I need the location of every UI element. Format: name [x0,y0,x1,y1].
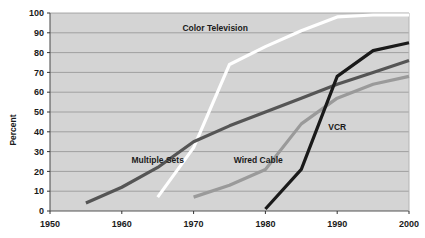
series-label-multiple-sets: Multiple Sets [131,155,184,165]
y-tick-label: 40 [34,127,44,137]
x-tick-label: 1980 [255,219,275,229]
y-tick-label: 10 [34,186,44,196]
x-tick-labels-group: 195019601970198019902000 [40,219,419,229]
x-tick-label: 1950 [40,219,60,229]
y-tick-label: 0 [39,206,44,216]
y-tick-label: 60 [34,87,44,97]
y-axis-title-group: Percent [8,114,18,145]
line-chart: 0102030405060708090100 19501960197019801… [0,0,425,238]
y-tick-label: 100 [29,8,44,18]
series-label-vcr: VCR [328,122,346,132]
y-tick-label: 70 [34,68,44,78]
chart-container: 0102030405060708090100 19501960197019801… [0,0,425,238]
y-tick-label: 80 [34,48,44,58]
y-tick-label: 90 [34,28,44,38]
series-label-color-television: Color Television [182,23,248,33]
series-label-wired-cable: Wired Cable [234,155,283,165]
y-tick-label: 20 [34,167,44,177]
x-tick-label: 1960 [112,219,132,229]
y-tick-labels-group: 0102030405060708090100 [29,8,44,216]
y-axis-title: Percent [8,114,18,145]
x-tick-label: 1990 [327,219,347,229]
x-tick-label: 1970 [184,219,204,229]
x-tick-label: 2000 [399,219,419,229]
y-tick-label: 50 [34,107,44,117]
y-tick-label: 30 [34,147,44,157]
